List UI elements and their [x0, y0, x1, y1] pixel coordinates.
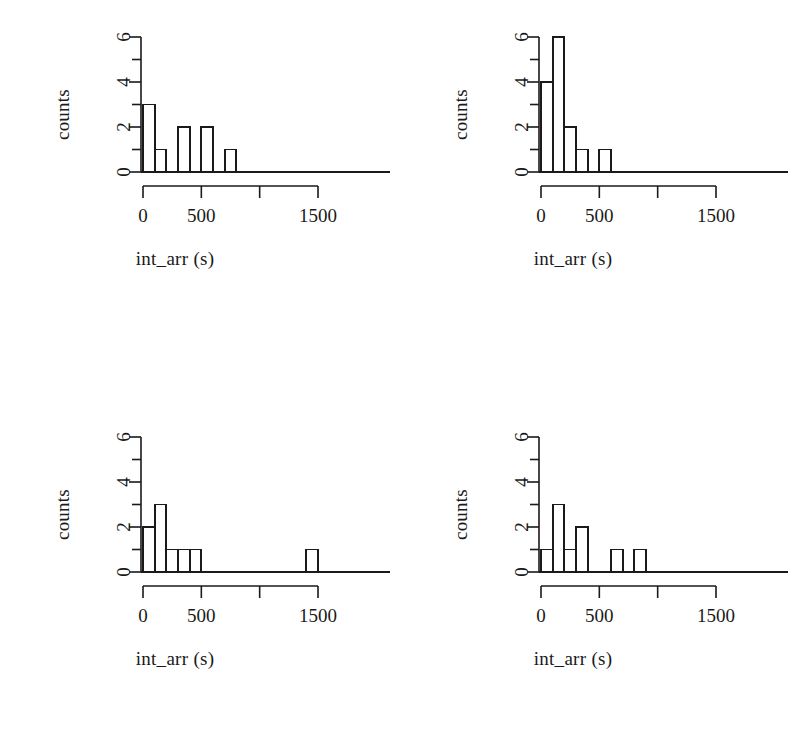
histogram-bar	[306, 550, 318, 573]
histogram-bar	[576, 150, 588, 173]
x-tick-label: 500	[585, 605, 614, 626]
x-tick-label: 0	[138, 205, 148, 226]
x-axis-label-top-right: int_arr (s)	[534, 248, 613, 270]
y-tick-label: 0	[113, 167, 134, 177]
histogram-bar	[143, 527, 155, 572]
histogram-bar	[155, 150, 167, 173]
y-axis-label-top-left: counts	[52, 89, 74, 140]
cut-off-caption	[0, 726, 795, 735]
y-tick-label: 4	[113, 77, 134, 87]
histogram-bar	[166, 550, 178, 573]
x-tick-label: 0	[138, 605, 148, 626]
histogram-bar	[155, 505, 167, 573]
x-axis-label-bottom-right: int_arr (s)	[534, 648, 613, 670]
x-tick-label: 0	[536, 605, 546, 626]
y-tick-label: 2	[511, 122, 532, 132]
y-axis-label-bottom-right: counts	[450, 489, 472, 540]
x-tick-label: 500	[187, 605, 216, 626]
histogram-bar	[611, 550, 623, 573]
histogram-bar	[178, 550, 190, 573]
y-tick-label: 4	[511, 477, 532, 487]
x-tick-label: 500	[187, 205, 216, 226]
y-tick-label: 4	[113, 477, 134, 487]
histogram-bar	[201, 127, 213, 172]
y-tick-label: 0	[511, 167, 532, 177]
y-tick-label: 2	[113, 522, 134, 532]
histogram-bar	[225, 150, 237, 173]
panel-bottom-left: 024605001500 counts int_arr (s)	[0, 400, 397, 735]
histogram-bar	[541, 550, 553, 573]
y-axis-label-top-right: counts	[450, 89, 472, 140]
y-tick-label: 0	[113, 567, 134, 577]
histogram-bar	[599, 150, 611, 173]
y-tick-label: 6	[511, 32, 532, 42]
histogram-bar	[190, 550, 202, 573]
x-tick-label: 1500	[299, 205, 337, 226]
y-tick-label: 2	[113, 122, 134, 132]
y-tick-label: 6	[113, 32, 134, 42]
histogram-bar	[576, 527, 588, 572]
x-tick-label: 1500	[697, 605, 735, 626]
histogram-bar	[634, 550, 646, 573]
y-tick-label: 6	[113, 432, 134, 442]
histogram-bar	[178, 127, 190, 172]
y-tick-label: 2	[511, 522, 532, 532]
panel-bottom-right: 024605001500 counts int_arr (s)	[398, 400, 795, 735]
histogram-bar	[541, 82, 553, 172]
x-axis-label-top-left: int_arr (s)	[136, 248, 215, 270]
x-tick-label: 500	[585, 205, 614, 226]
x-axis-label-bottom-left: int_arr (s)	[136, 648, 215, 670]
histogram-panel-grid: 024605001500 counts int_arr (s) 02460500…	[0, 0, 795, 735]
y-axis-label-bottom-left: counts	[52, 489, 74, 540]
x-tick-label: 1500	[697, 205, 735, 226]
y-tick-label: 6	[511, 432, 532, 442]
histogram-bar	[553, 505, 565, 573]
x-tick-label: 1500	[299, 605, 337, 626]
panel-top-left: 024605001500 counts int_arr (s)	[0, 0, 397, 345]
y-tick-label: 4	[511, 77, 532, 87]
x-tick-label: 0	[536, 205, 546, 226]
panel-top-right: 024605001500 counts int_arr (s)	[398, 0, 795, 345]
histogram-bar	[553, 37, 565, 172]
histogram-bar	[564, 550, 576, 573]
histogram-bar	[143, 105, 155, 173]
y-tick-label: 0	[511, 567, 532, 577]
histogram-bar	[564, 127, 576, 172]
